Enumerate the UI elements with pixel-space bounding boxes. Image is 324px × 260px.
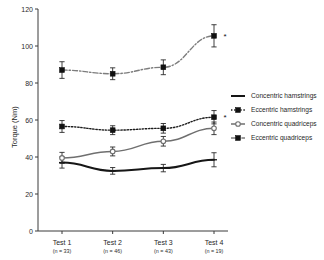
figure-container: Torque (Nm) 020406080100120 ** Test 1(n … [0, 0, 324, 260]
y-tick-label: 40 [25, 154, 33, 161]
y-tick-label: 0 [29, 228, 33, 235]
data-point-marker [161, 126, 166, 131]
y-tick-label: 20 [25, 191, 33, 198]
data-point-marker [110, 149, 115, 154]
y-tick-label: 80 [25, 80, 33, 87]
significance-asterisk: * [223, 113, 226, 122]
significance-asterisk: * [223, 32, 226, 41]
y-axis-title: Torque (Nm) [10, 106, 19, 148]
legend-item-label: Concentric hamstrings [251, 92, 317, 100]
legend-item-label: Concentric quadriceps [251, 120, 317, 128]
data-point-marker [236, 108, 241, 113]
data-point-marker [236, 136, 241, 141]
legend-item-label: Eccentric hamstrings [251, 106, 313, 114]
data-point-marker [161, 139, 166, 144]
x-category-label: Test 4 [205, 239, 224, 246]
data-point-marker [236, 122, 241, 127]
data-point-marker [212, 115, 217, 120]
y-tick-label: 100 [21, 43, 33, 50]
y-tick-label: 60 [25, 117, 33, 124]
data-point-marker [212, 33, 217, 38]
y-tick-label: 120 [21, 6, 33, 13]
x-category-label: Test 2 [103, 239, 122, 246]
data-point-marker [212, 126, 217, 131]
data-point-marker [60, 124, 65, 129]
data-point-marker [60, 156, 65, 161]
x-category-sublabel: (n = 43) [154, 248, 173, 254]
x-category-sublabel: (n = 19) [205, 248, 224, 254]
data-point-marker [110, 128, 115, 133]
x-category-label: Test 3 [154, 239, 173, 246]
data-point-marker [60, 68, 65, 73]
x-category-sublabel: (n = 46) [103, 248, 122, 254]
y-axis-title-text: Torque (Nm) [10, 106, 19, 148]
data-point-marker [110, 71, 115, 76]
data-point-marker [161, 65, 166, 70]
x-category-sublabel: (n = 33) [53, 248, 72, 254]
legend-item-label: Eccentric quadriceps [251, 134, 313, 142]
x-category-label: Test 1 [53, 239, 72, 246]
torque-line-chart: Torque (Nm) 020406080100120 ** Test 1(n … [0, 0, 324, 260]
